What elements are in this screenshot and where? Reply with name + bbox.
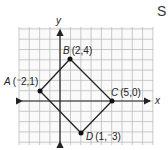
coordinate-plane: x y A(⁻2,1) B(2,4) C(5,0) D(1,⁻3) S (0, 0, 168, 150)
y-axis-label: y (55, 15, 62, 26)
label-point-a: A(⁻2,1) (3, 76, 38, 87)
point-b (68, 57, 73, 62)
label-point-d: D(1,⁻3) (86, 131, 121, 142)
cut-off-text: S (157, 3, 166, 19)
label-point-c: C(5,0) (111, 87, 141, 98)
point-c (110, 99, 115, 104)
point-a (38, 89, 43, 94)
label-point-b: B(2,4) (63, 45, 92, 56)
x-axis-label: x (154, 95, 161, 106)
point-d (79, 131, 84, 136)
